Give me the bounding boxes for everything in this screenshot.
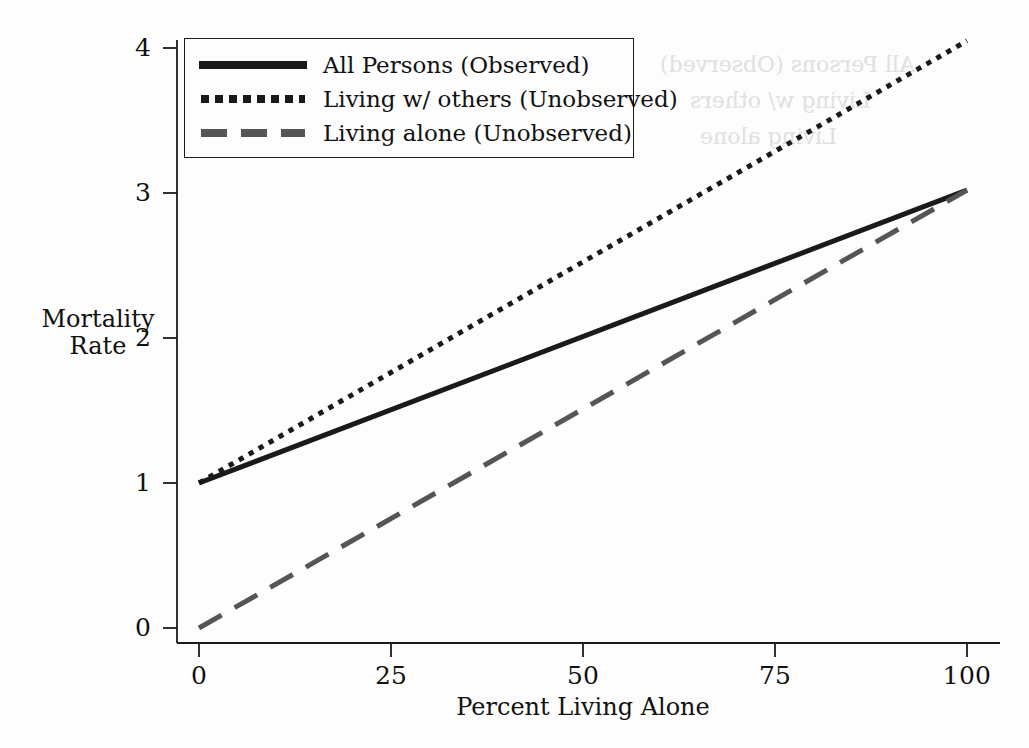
legend-swatch-dashed-line-icon [199, 124, 307, 142]
legend-item-living-with-others: Living w/ others (Unobserved) [199, 82, 633, 116]
y-tick-label: 1 [111, 470, 151, 495]
y-axis-ticks [163, 48, 177, 628]
x-axis-ticks [199, 643, 967, 657]
legend-swatch-dotted-line-icon [199, 90, 307, 108]
y-tick-label: 4 [111, 35, 151, 60]
figure-page: All Persons (Observed) Living w/ others … [0, 0, 1029, 748]
series-line [199, 190, 967, 483]
chart-legend: All Persons (Observed) Living w/ others … [184, 38, 634, 158]
legend-item-living-alone: Living alone (Unobserved) [199, 116, 633, 150]
x-tick-label: 100 [922, 663, 1012, 688]
y-tick-label: 0 [111, 615, 151, 640]
y-tick-label: 3 [111, 180, 151, 205]
y-axis-title-line-2: Rate [38, 333, 158, 360]
legend-swatch-solid-line-icon [199, 56, 307, 74]
x-tick-label: 75 [730, 663, 820, 688]
y-axis-title: Mortality Rate [38, 306, 158, 360]
series-line [199, 190, 967, 628]
legend-label-living-with-others: Living w/ others (Unobserved) [323, 88, 678, 111]
legend-label-living-alone: Living alone (Unobserved) [323, 122, 632, 145]
legend-label-all-persons: All Persons (Observed) [323, 54, 590, 77]
x-axis-title: Percent Living Alone [383, 694, 783, 721]
legend-item-all-persons: All Persons (Observed) [199, 48, 633, 82]
x-tick-label: 25 [346, 663, 436, 688]
y-axis-title-line-1: Mortality [38, 306, 158, 333]
x-tick-label: 50 [538, 663, 628, 688]
x-tick-label: 0 [154, 663, 244, 688]
